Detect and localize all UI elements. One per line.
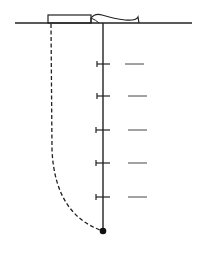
surface-slab	[48, 15, 91, 23]
bottom-point	[100, 228, 107, 235]
well-diagram	[0, 0, 201, 256]
dashed-path	[51, 24, 103, 231]
marker-labels-placeholder	[125, 64, 147, 197]
cover-join	[91, 18, 99, 23]
diagram-canvas	[0, 0, 201, 256]
